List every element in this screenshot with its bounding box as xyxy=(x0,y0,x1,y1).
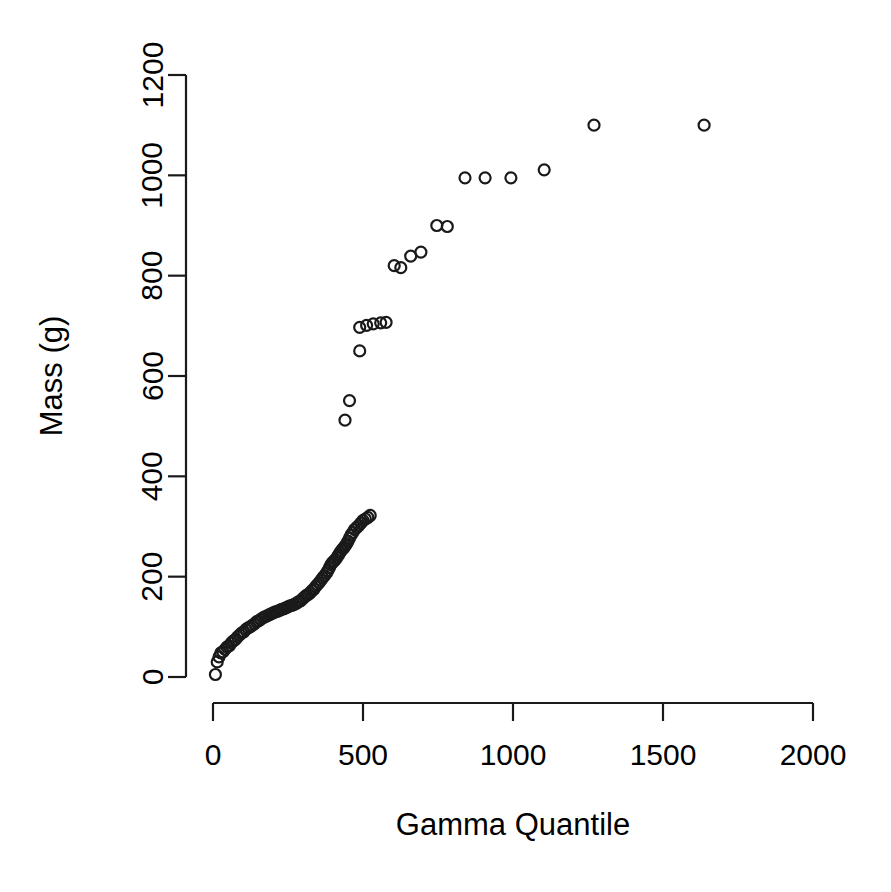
qq-plot-figure: 020040060080010001200 0500100015002000 G… xyxy=(0,0,891,892)
y-axis-ticks xyxy=(168,75,186,677)
x-tick-label-2000: 2000 xyxy=(780,738,847,771)
x-axis-tick-labels: 0500100015002000 xyxy=(205,738,847,771)
data-point xyxy=(354,345,365,356)
x-tick-label-0: 0 xyxy=(205,738,222,771)
data-point xyxy=(480,172,491,183)
y-tick-label-0: 0 xyxy=(136,669,169,686)
data-point xyxy=(210,669,221,680)
x-axis-ticks xyxy=(213,703,813,721)
data-point xyxy=(354,322,365,333)
y-tick-label-200: 200 xyxy=(136,552,169,602)
x-tick-label-1000: 1000 xyxy=(480,738,547,771)
data-point xyxy=(505,172,516,183)
data-point xyxy=(340,415,351,426)
data-point xyxy=(699,120,710,131)
data-point xyxy=(431,220,442,231)
x-axis-title: Gamma Quantile xyxy=(396,807,630,842)
y-tick-label-600: 600 xyxy=(136,351,169,401)
data-point xyxy=(395,262,406,273)
y-tick-label-1000: 1000 xyxy=(136,142,169,209)
data-point xyxy=(442,221,453,232)
y-tick-label-400: 400 xyxy=(136,451,169,501)
data-point xyxy=(415,247,426,258)
data-point xyxy=(344,395,355,406)
y-tick-label-800: 800 xyxy=(136,251,169,301)
data-point xyxy=(539,164,550,175)
x-tick-label-1500: 1500 xyxy=(630,738,697,771)
data-point xyxy=(589,120,600,131)
y-axis-title: Mass (g) xyxy=(34,316,69,437)
x-axis: 0500100015002000 xyxy=(205,703,847,771)
x-tick-label-500: 500 xyxy=(338,738,388,771)
y-axis: 020040060080010001200 xyxy=(136,42,187,686)
data-point xyxy=(460,172,471,183)
y-tick-label-1200: 1200 xyxy=(136,42,169,109)
chart-canvas: 020040060080010001200 0500100015002000 G… xyxy=(0,0,891,892)
y-axis-tick-labels: 020040060080010001200 xyxy=(136,42,169,686)
scatter-points-group xyxy=(210,120,710,680)
